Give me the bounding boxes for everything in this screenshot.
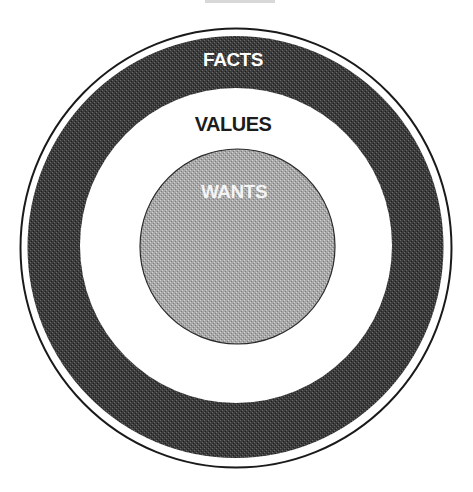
wants-circle	[140, 149, 335, 344]
concentric-circles-diagram	[0, 0, 473, 492]
facts-label: FACTS	[203, 49, 263, 71]
wants-label: WANTS	[201, 181, 267, 203]
values-label: VALUES	[195, 113, 272, 136]
